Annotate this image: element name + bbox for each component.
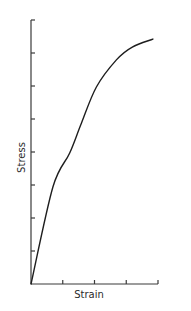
y-axis-label: Stress <box>16 138 27 178</box>
x-axis-label: Strain <box>68 289 110 300</box>
stress-strain-chart <box>0 0 191 311</box>
axes <box>31 20 158 284</box>
stress-strain-curve <box>31 39 153 284</box>
